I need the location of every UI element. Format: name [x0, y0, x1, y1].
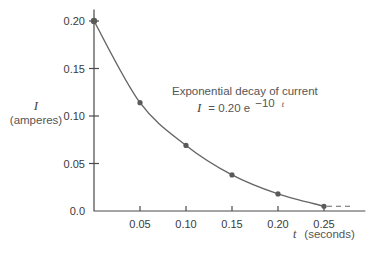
y-tick-label: 0.20 [64, 15, 85, 27]
x-tick-label: 0.20 [267, 218, 288, 230]
data-point [183, 143, 188, 148]
chart-title: Exponential decay of current [172, 85, 319, 97]
chart: 0.050.100.150.200.25 0.00.050.100.150.20… [0, 0, 381, 255]
data-point [275, 191, 280, 196]
y-axis-var: I [33, 98, 39, 113]
data-point [321, 204, 326, 209]
data-point [137, 100, 142, 105]
y-tick-label: 0.10 [64, 110, 85, 122]
y-tick-label: 0.15 [64, 63, 85, 75]
equation-lhs: I [196, 100, 202, 115]
equation-rhs: = 0.20 e [208, 102, 250, 114]
x-axis-var: t [293, 227, 297, 241]
x-tick-label: 0.05 [129, 218, 150, 230]
equation-exponent-var: t [282, 100, 285, 109]
y-tick-label: 0.0 [70, 205, 85, 217]
x-ticks: 0.050.100.150.200.25 [129, 206, 334, 230]
x-tick-label: 0.10 [175, 218, 196, 230]
data-point [91, 18, 97, 24]
y-tick-label: 0.05 [64, 158, 85, 170]
data-point [229, 172, 234, 177]
y-axis-unit: (amperes) [10, 114, 63, 126]
equation-exponent: −10 [255, 97, 275, 109]
x-axis-unit: (seconds) [304, 228, 355, 240]
x-tick-label: 0.15 [221, 218, 242, 230]
